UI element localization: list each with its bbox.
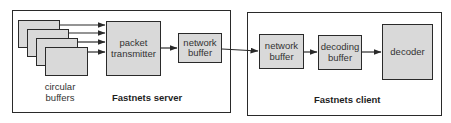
arrow-server-to-client [222, 49, 258, 51]
connector-arrows [0, 0, 451, 123]
fastnets-diagram: circular buffers packet transmitter netw… [0, 0, 451, 123]
